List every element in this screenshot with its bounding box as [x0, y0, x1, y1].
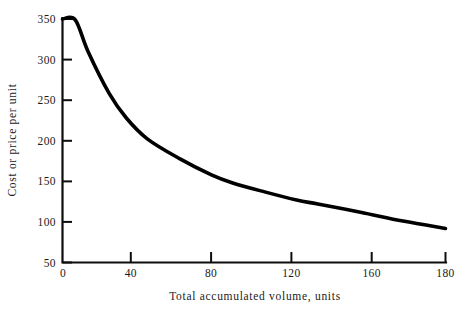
x-tick-label-120: 120 — [282, 267, 300, 279]
x-tick-label-0: 0 — [60, 267, 66, 279]
y-tick-label-250: 250 — [38, 94, 56, 106]
y-tick-label-300: 300 — [38, 54, 56, 66]
x-tick-label-160: 160 — [362, 267, 380, 279]
data-series-line — [63, 17, 446, 228]
y-tick-label-200: 200 — [38, 135, 56, 147]
y-tick-label-350: 350 — [38, 13, 56, 25]
y-axis-title: Cost or price per unit — [6, 83, 19, 196]
y-tick-label-100: 100 — [38, 216, 56, 228]
x-axis-ticks — [131, 252, 446, 263]
x-tick-label-80: 80 — [205, 267, 217, 279]
x-tick-label-40: 40 — [125, 267, 137, 279]
chart-axes — [63, 18, 447, 263]
x-axis-title: Total accumulated volume, units — [169, 290, 341, 303]
y-axis-tick-labels: 50 100 150 200 250 300 350 — [38, 13, 56, 269]
x-tick-label-180: 180 — [436, 267, 454, 279]
cost-volume-line-chart: 50 100 150 200 250 300 350 0 40 80 120 1… — [0, 0, 468, 313]
y-tick-label-150: 150 — [38, 175, 56, 187]
x-axis-tick-labels: 0 40 80 120 160 180 — [60, 267, 455, 279]
y-axis-ticks — [63, 19, 73, 263]
chart-page: 50 100 150 200 250 300 350 0 40 80 120 1… — [0, 0, 468, 313]
y-tick-label-50: 50 — [44, 257, 56, 269]
